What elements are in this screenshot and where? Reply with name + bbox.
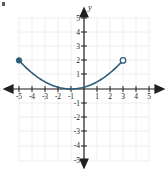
y-axis-label: y [87,2,92,12]
y-tick-label: -1 [74,99,80,108]
x-tick-label: 4 [134,92,138,101]
y-tick-label: 5 [76,14,80,23]
left-endpoint-closed-dot [16,58,21,63]
graph-canvas: -5 -4 -3 -2 -1 1 2 3 4 5 5 4 3 2 1 -1 -2… [0,0,168,169]
x-tick-label: -5 [16,92,22,101]
x-tick-label: -4 [29,92,35,101]
x-axis-arrow-right [155,85,164,93]
right-endpoint-open-dot [120,58,125,63]
x-tick-label: -3 [42,92,48,101]
x-tick-label: 3 [121,92,125,101]
x-tick-label: 2 [108,92,112,101]
y-tick-label: 2 [76,56,80,65]
y-tick-label: 1 [76,70,80,79]
coordinate-plane-figure: -5 -4 -3 -2 -1 1 2 3 4 5 5 4 3 2 1 -1 -2… [0,0,168,169]
x-tick-label: -2 [55,92,61,101]
y-axis-arrow-bottom [80,159,88,168]
x-tick-label: 5 [147,92,151,101]
y-tick-label: -3 [74,127,80,136]
y-tick-label: -2 [74,113,80,122]
y-tick-label: -5 [74,156,80,165]
x-tick-label: 1 [95,92,99,101]
x-axis-arrow-left [4,85,13,93]
y-tick-label: 3 [76,42,80,51]
y-tick-label: -4 [74,141,80,150]
y-tick-label: 4 [76,28,80,37]
y-axis-arrow-top [80,8,88,17]
